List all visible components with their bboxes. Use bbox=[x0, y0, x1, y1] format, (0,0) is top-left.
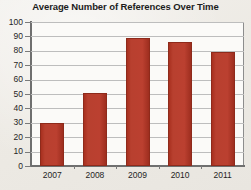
y-axis-tick-label: 20 bbox=[0, 133, 23, 142]
y-axis-tick bbox=[25, 80, 31, 81]
x-axis-tick-label: 2008 bbox=[74, 170, 116, 180]
x-axis-tick bbox=[201, 166, 202, 169]
y-axis-tick-label: 100 bbox=[0, 18, 23, 27]
y-axis-tick-label: 70 bbox=[0, 61, 23, 70]
x-axis-tick bbox=[74, 166, 75, 169]
chart-title: Average Number of References Over Time bbox=[0, 1, 251, 12]
x-axis-tick-label: 2009 bbox=[117, 170, 159, 180]
bar bbox=[211, 52, 235, 166]
y-axis-tick-label: 30 bbox=[0, 118, 23, 127]
y-axis-tick bbox=[25, 94, 31, 95]
y-axis-tick bbox=[25, 65, 31, 66]
x-axis-tick-label: 2011 bbox=[202, 170, 244, 180]
x-axis-tick-label: 2010 bbox=[159, 170, 201, 180]
y-axis-tick bbox=[25, 22, 31, 23]
y-axis-tick bbox=[25, 137, 31, 138]
y-axis-tick-label: 50 bbox=[0, 90, 23, 99]
x-axis-tick bbox=[116, 166, 117, 169]
y-axis-tick-label: 90 bbox=[0, 32, 23, 41]
x-axis-tick bbox=[159, 166, 160, 169]
chart-figure: Average Number of References Over Time 0… bbox=[0, 0, 251, 190]
y-axis-tick bbox=[25, 152, 31, 153]
y-axis-tick bbox=[25, 108, 31, 109]
y-axis-tick-label: 40 bbox=[0, 104, 23, 113]
x-axis-tick-label: 2007 bbox=[31, 170, 73, 180]
y-axis-tick bbox=[25, 123, 31, 124]
y-axis-tick-label: 10 bbox=[0, 147, 23, 156]
bar bbox=[40, 123, 64, 166]
bar bbox=[126, 38, 150, 166]
y-axis-tick-label: 80 bbox=[0, 46, 23, 55]
bar bbox=[168, 42, 192, 166]
gridline bbox=[31, 22, 244, 23]
y-axis-tick bbox=[25, 166, 31, 167]
y-axis-tick-label: 0 bbox=[0, 162, 23, 171]
bar bbox=[83, 93, 107, 166]
y-axis-tick bbox=[25, 51, 31, 52]
y-axis-tick-label: 60 bbox=[0, 75, 23, 84]
y-axis-tick bbox=[25, 36, 31, 37]
